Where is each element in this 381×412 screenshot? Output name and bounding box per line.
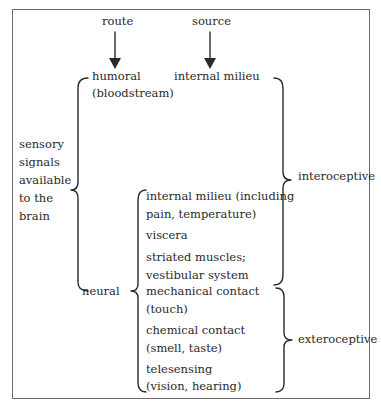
neural-brace-icon — [131, 190, 146, 392]
source-arrow-icon — [204, 32, 216, 69]
exteroceptive-brace-icon — [276, 288, 292, 392]
interoceptive-brace-icon — [274, 78, 291, 285]
route-arrow-icon — [109, 32, 121, 69]
left-brace-icon — [71, 78, 88, 291]
sensory-signals-diagram: route source sensory signals available t… — [0, 0, 381, 412]
diagram-lines — [0, 0, 381, 412]
